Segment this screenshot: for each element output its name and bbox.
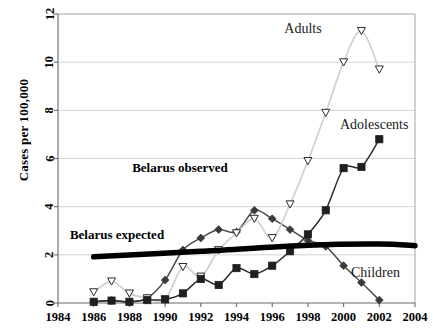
y-tick-label: 4 <box>43 203 57 210</box>
x-tick-label: 2000 <box>331 310 356 324</box>
y-axis-ticks: 024681012 <box>42 8 58 306</box>
y-tick-label: 0 <box>43 300 57 306</box>
x-tick-label: 1998 <box>295 310 320 324</box>
y-tick-label: 12 <box>43 8 57 21</box>
x-tick-label: 2002 <box>367 310 392 324</box>
data-point-marker <box>144 297 151 304</box>
data-point-marker <box>340 165 347 172</box>
annotation-adolescents: Adolescents <box>340 117 408 132</box>
y-tick-label: 2 <box>43 252 57 258</box>
data-point-marker <box>358 163 365 170</box>
x-tick-label: 1990 <box>153 310 178 324</box>
data-point-marker <box>108 297 115 304</box>
data-point-marker <box>162 296 169 303</box>
data-point-marker <box>322 109 330 116</box>
data-point-marker <box>90 289 98 296</box>
gridlines <box>58 62 415 255</box>
data-point-marker <box>215 281 222 288</box>
y-axis-title: Cases per 100,000 <box>16 50 32 210</box>
data-point-marker <box>304 158 312 165</box>
data-point-marker <box>376 136 383 143</box>
x-tick-label: 1994 <box>224 310 250 324</box>
data-point-marker <box>269 262 276 269</box>
x-tick-label: 2004 <box>403 310 429 324</box>
data-point-marker <box>286 226 294 234</box>
chart-figure: Cases per 100,000 024681012 198419861988… <box>0 0 434 331</box>
y-tick-label: 6 <box>43 155 57 161</box>
y-tick-label: 8 <box>43 107 57 113</box>
x-axis-ticks: 1984198619881990199219941996199820002002… <box>46 303 429 324</box>
annotation-children: Children <box>351 265 400 280</box>
annotation-belarus-expected: Belarus expected <box>70 227 165 242</box>
data-point-marker <box>90 298 97 305</box>
data-point-marker <box>179 290 186 297</box>
x-tick-label: 1992 <box>188 310 213 324</box>
data-point-marker <box>304 231 311 238</box>
y-tick-label: 10 <box>42 56 56 69</box>
data-point-marker <box>197 234 205 242</box>
annotation-belarus-observed: Belarus observed <box>132 160 228 175</box>
plot-canvas: 024681012 198419861988199019921994199619… <box>0 0 434 331</box>
data-point-marker <box>233 264 240 271</box>
data-point-marker <box>268 215 276 223</box>
data-point-marker <box>197 275 204 282</box>
data-point-marker <box>322 207 329 214</box>
data-point-marker <box>215 226 223 234</box>
data-point-marker <box>251 271 258 278</box>
x-tick-label: 1996 <box>260 310 285 324</box>
data-point-marker <box>126 298 133 305</box>
x-tick-label: 1988 <box>117 310 142 324</box>
annotation-adults: Adults <box>284 21 321 36</box>
x-tick-label: 1984 <box>46 310 72 324</box>
data-point-marker <box>125 290 133 297</box>
x-tick-label: 1986 <box>81 310 106 324</box>
data-point-marker <box>375 66 383 73</box>
